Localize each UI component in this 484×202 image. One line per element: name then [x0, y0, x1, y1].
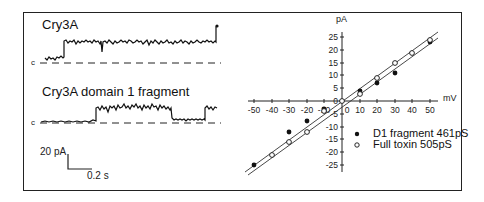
legend-marker-open: [355, 143, 359, 147]
svg-text:10: 10: [329, 70, 339, 80]
svg-text:-20: -20: [326, 147, 339, 157]
svg-text:5: 5: [333, 83, 338, 93]
svg-text:25: 25: [329, 32, 339, 42]
trace-cry3a: [45, 26, 217, 60]
x-axis-unit: mV: [443, 93, 457, 103]
svg-text:50: 50: [425, 105, 435, 115]
trace-end-marker: [215, 24, 218, 27]
scale-bar: [68, 154, 92, 169]
svg-text:-20: -20: [301, 105, 314, 115]
svg-text:-10: -10: [326, 122, 339, 132]
svg-text:-30: -30: [283, 105, 296, 115]
svg-text:20: 20: [329, 45, 339, 55]
svg-text:-40: -40: [266, 105, 279, 115]
svg-text:20: 20: [372, 105, 382, 115]
svg-text:40: 40: [407, 105, 417, 115]
traces-svg: -50 -40 -30 -20 -10 0 10 20 30 40 50 25 …: [0, 0, 484, 202]
svg-text:15: 15: [329, 58, 339, 68]
svg-text:-50: -50: [248, 105, 261, 115]
svg-text:30: 30: [390, 105, 400, 115]
svg-text:0: 0: [345, 105, 350, 115]
trace-d1-fragment: [41, 104, 217, 122]
y-axis-unit: pA: [336, 14, 347, 24]
legend-marker-filled: [355, 132, 359, 136]
legend-full-toxin: Full toxin 505pS: [373, 138, 452, 150]
svg-text:-15: -15: [326, 134, 339, 144]
svg-text:-25: -25: [326, 160, 339, 170]
svg-text:10: 10: [355, 105, 365, 115]
